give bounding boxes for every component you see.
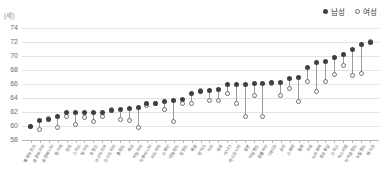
marker-male[interactable] (225, 82, 230, 87)
x-axis-label: 스웨덴 (286, 144, 296, 156)
marker-male[interactable] (359, 42, 364, 47)
connector-line (245, 84, 246, 117)
y-axis-tick-label: 68 (2, 66, 18, 73)
x-axis-label: 핀란드 (179, 144, 189, 156)
marker-male[interactable] (332, 55, 337, 60)
x-axis-label: 벨기에 (54, 144, 64, 156)
connector-line (173, 100, 174, 121)
marker-male[interactable] (73, 110, 78, 115)
marker-male[interactable] (127, 106, 132, 111)
marker-female[interactable] (64, 114, 69, 119)
marker-male[interactable] (207, 88, 212, 93)
marker-female[interactable] (323, 79, 328, 84)
chart-legend: 남성 여성 (323, 6, 377, 17)
marker-male[interactable] (314, 60, 319, 65)
marker-female[interactable] (278, 93, 283, 98)
x-axis-label: 터키 (207, 144, 215, 153)
retirement-age-chart: (세) 남성 여성 747270686664626058룩셈부르크슬로바키아슬로… (0, 0, 383, 184)
marker-female[interactable] (359, 71, 364, 76)
marker-male[interactable] (28, 124, 33, 129)
marker-female[interactable] (350, 73, 355, 78)
connector-line (361, 44, 362, 73)
y-axis-tick-label: 66 (2, 80, 18, 87)
marker-male[interactable] (260, 81, 265, 86)
marker-female[interactable] (118, 117, 123, 122)
legend-label-female: 여성 (363, 6, 377, 17)
marker-male[interactable] (296, 75, 301, 80)
x-axis-label: 덴마크 (197, 144, 207, 156)
marker-female[interactable] (243, 114, 248, 119)
y-axis-tick-label: 72 (2, 38, 18, 45)
gridline (22, 98, 379, 99)
plot-area: 747270686664626058룩셈부르크슬로바키아슬로베니아벨기에한국그리… (22, 28, 379, 140)
marker-male[interactable] (350, 47, 355, 52)
marker-female[interactable] (216, 98, 221, 103)
marker-male[interactable] (136, 105, 141, 110)
marker-female[interactable] (296, 99, 301, 104)
y-axis-tick-label: 60 (2, 122, 18, 129)
marker-male[interactable] (287, 76, 292, 81)
marker-male[interactable] (189, 91, 194, 96)
marker-female[interactable] (332, 72, 337, 77)
y-axis-tick-label: 70 (2, 52, 18, 59)
y-axis-tick-label: 62 (2, 108, 18, 115)
gridline (22, 28, 379, 29)
marker-male[interactable] (82, 110, 87, 115)
marker-male[interactable] (91, 110, 96, 115)
connector-line (352, 50, 353, 76)
legend-item-female[interactable]: 여성 (355, 6, 377, 17)
x-axis-label: 폴란드 (116, 144, 126, 156)
marker-male[interactable] (198, 89, 203, 94)
legend-item-male[interactable]: 남성 (323, 6, 345, 17)
marker-male[interactable] (341, 52, 346, 57)
marker-male[interactable] (368, 40, 373, 45)
marker-male[interactable] (37, 118, 42, 123)
marker-female[interactable] (82, 115, 87, 120)
marker-female[interactable] (100, 114, 105, 119)
connector-line (298, 78, 299, 102)
gridline (22, 84, 379, 85)
marker-female[interactable] (314, 89, 319, 94)
marker-female[interactable] (225, 91, 230, 96)
hollow-circle-icon (355, 9, 360, 14)
gridline (22, 56, 379, 57)
marker-male[interactable] (234, 82, 239, 87)
marker-female[interactable] (55, 125, 60, 130)
x-axis-label: 칠레 (297, 144, 305, 153)
marker-male[interactable] (171, 98, 176, 103)
marker-female[interactable] (171, 119, 176, 124)
marker-male[interactable] (109, 108, 114, 113)
y-axis-tick-label: 64 (2, 94, 18, 101)
marker-male[interactable] (216, 87, 221, 92)
marker-female[interactable] (260, 114, 265, 119)
marker-female[interactable] (341, 63, 346, 68)
marker-male[interactable] (100, 110, 105, 115)
marker-male[interactable] (153, 101, 158, 106)
x-axis-label: OECD (268, 144, 278, 157)
gridline (22, 42, 379, 43)
marker-female[interactable] (91, 119, 96, 124)
marker-male[interactable] (55, 114, 60, 119)
y-axis-tick-label: 58 (2, 136, 18, 143)
marker-female[interactable] (234, 101, 239, 106)
marker-female[interactable] (287, 86, 292, 91)
y-axis-unit-label: (세) (4, 10, 14, 20)
marker-female[interactable] (305, 79, 310, 84)
marker-male[interactable] (323, 59, 328, 64)
connector-line (316, 62, 317, 91)
marker-female[interactable] (127, 118, 132, 123)
connector-line (262, 83, 263, 117)
marker-male[interactable] (162, 99, 167, 104)
marker-female[interactable] (136, 125, 141, 130)
marker-male[interactable] (46, 117, 51, 122)
marker-male[interactable] (243, 82, 248, 87)
legend-label-male: 남성 (331, 6, 345, 17)
marker-female[interactable] (37, 127, 42, 132)
marker-female[interactable] (207, 98, 212, 103)
filled-circle-icon (323, 9, 328, 14)
marker-female[interactable] (189, 101, 194, 106)
marker-male[interactable] (252, 81, 257, 86)
y-axis-tick-label: 74 (2, 24, 18, 31)
x-axis-label: 멕시코 (366, 144, 376, 156)
